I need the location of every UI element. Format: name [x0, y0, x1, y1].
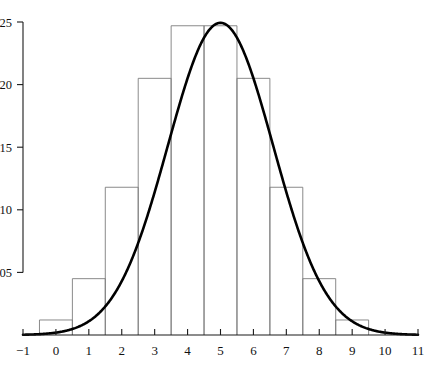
y-tick-label: 0.15 [0, 141, 12, 155]
plot-background [0, 0, 431, 377]
x-tick-label: 1 [86, 343, 93, 358]
x-tick-label: 6 [250, 343, 257, 358]
x-tick-label: 7 [283, 343, 290, 358]
x-tick-label: 2 [119, 343, 126, 358]
x-tick-label: 9 [349, 343, 356, 358]
x-tick-label: −1 [16, 343, 30, 358]
x-tick-label: 8 [316, 343, 323, 358]
figure-canvas: −101234567891011 0.050.100.150.200.25 [0, 0, 431, 377]
x-tick-label: 5 [217, 343, 224, 358]
y-tick-label: 0.10 [0, 203, 12, 217]
y-tick-label: 0.20 [0, 78, 12, 92]
x-tick-label: 10 [379, 343, 392, 358]
y-tick-label: 0.05 [0, 266, 12, 280]
x-tick-label: 4 [184, 343, 191, 358]
x-tick-label: 11 [412, 343, 425, 358]
x-tick-label: 0 [53, 343, 60, 358]
y-tick-label: 0.25 [0, 16, 12, 30]
x-tick-label: 3 [151, 343, 158, 358]
distribution-histogram-chart: −101234567891011 0.050.100.150.200.25 [0, 0, 431, 377]
